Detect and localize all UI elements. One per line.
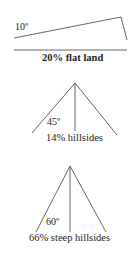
hillside-right-edge <box>75 83 117 135</box>
steep-hillsides-caption: 66% steep hillsides <box>29 233 110 243</box>
steep-right-edge <box>70 166 106 232</box>
flat-land-slope <box>14 17 127 40</box>
flat-land-caption: 20% flat land <box>42 53 103 63</box>
hillsides-caption: 14% hillsides <box>46 133 103 143</box>
flat-land-angle-label: 10º <box>15 22 28 32</box>
hillsides-angle-label: 45º <box>47 117 60 127</box>
terrain-diagram-lines <box>0 0 140 259</box>
steep-hillsides-angle-label: 60º <box>46 217 59 227</box>
